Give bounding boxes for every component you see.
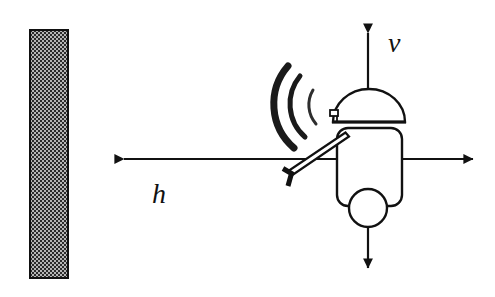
wall xyxy=(30,30,68,278)
h-axis-label: h xyxy=(152,178,166,209)
figure-canvas: v h xyxy=(0,0,495,297)
robot-wall-diagram: v h xyxy=(0,0,495,297)
wall-fill xyxy=(30,30,68,278)
robot-dome-knob xyxy=(330,110,338,116)
diagram-background xyxy=(0,0,495,297)
v-axis-label: v xyxy=(388,27,401,58)
robot-wheel xyxy=(349,189,387,227)
